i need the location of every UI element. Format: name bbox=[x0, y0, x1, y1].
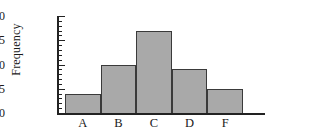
y-axis-major-tick bbox=[58, 113, 65, 114]
x-axis-tick-label-F: F bbox=[207, 117, 243, 130]
y-axis-minor-tick bbox=[58, 69, 62, 70]
x-axis-tick-label-D: D bbox=[172, 117, 208, 130]
y-axis-minor-tick bbox=[58, 55, 62, 56]
y-axis-major-tick bbox=[58, 65, 65, 66]
bar-C bbox=[136, 31, 172, 113]
y-axis-major-tick bbox=[58, 40, 65, 41]
y-axis-minor-tick bbox=[58, 21, 62, 22]
x-axis-tick-label-C: C bbox=[136, 117, 172, 130]
y-axis-minor-tick bbox=[58, 50, 62, 51]
y-axis-minor-tick bbox=[58, 60, 62, 61]
bar-B bbox=[101, 65, 137, 114]
y-axis-tick-label: 0 bbox=[0, 107, 5, 119]
bar-F bbox=[207, 89, 243, 113]
bar-D bbox=[172, 69, 208, 113]
bar-series bbox=[65, 16, 243, 113]
y-axis-tick-label: 10 bbox=[0, 59, 5, 71]
y-axis-minor-tick bbox=[58, 103, 62, 104]
y-axis-major-tick bbox=[58, 89, 65, 90]
x-axis-tick-label-A: A bbox=[65, 117, 101, 130]
y-axis-minor-tick bbox=[58, 74, 62, 75]
frequency-histogram: Frequency 05101520 ABCDF bbox=[0, 0, 313, 140]
bar-A bbox=[65, 94, 101, 113]
y-axis-minor-tick bbox=[58, 94, 62, 95]
y-axis-major-tick bbox=[58, 16, 65, 17]
y-axis-minor-tick bbox=[58, 108, 62, 109]
y-axis-minor-tick bbox=[58, 35, 62, 36]
y-axis-minor-tick bbox=[58, 31, 62, 32]
y-axis-minor-tick bbox=[58, 98, 62, 99]
y-axis-tick-label: 20 bbox=[0, 10, 5, 22]
y-axis-tick-label: 5 bbox=[0, 83, 5, 95]
x-axis-tick-label-B: B bbox=[101, 117, 137, 130]
y-axis-label: Frequency bbox=[9, 5, 24, 95]
y-axis-minor-tick bbox=[58, 26, 62, 27]
y-axis-tick-label: 15 bbox=[0, 34, 5, 46]
plot-area: 05101520 ABCDF bbox=[57, 16, 265, 113]
x-axis-line bbox=[57, 113, 265, 115]
y-axis-minor-tick bbox=[58, 45, 62, 46]
y-axis-minor-tick bbox=[58, 84, 62, 85]
y-axis-minor-tick bbox=[58, 79, 62, 80]
